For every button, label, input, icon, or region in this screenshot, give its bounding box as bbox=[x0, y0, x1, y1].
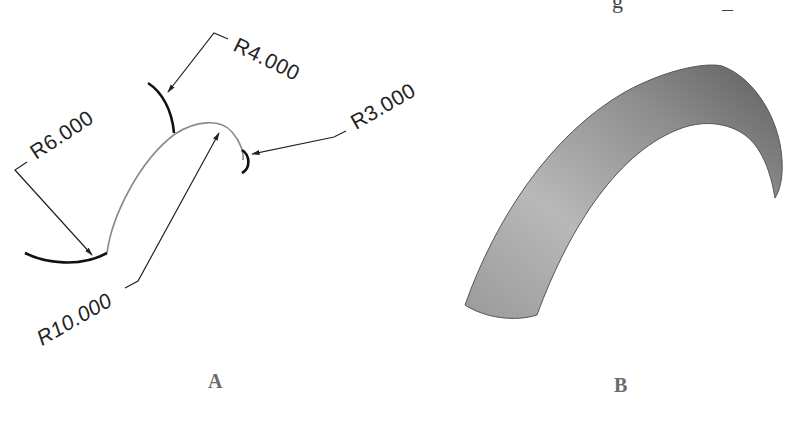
figure-canvas: R4.000 R3.000 R6.000 R10.000 bbox=[0, 0, 802, 425]
sweep-path-arc bbox=[107, 123, 243, 253]
r10-leader bbox=[125, 133, 219, 288]
swept-surface bbox=[465, 65, 782, 318]
r4-section-arc bbox=[148, 83, 174, 133]
r6-dimension-label: R6.000 bbox=[26, 106, 98, 164]
r3-dimension-label: R3.000 bbox=[347, 78, 420, 133]
r10-dimension-label: R10.000 bbox=[33, 288, 116, 349]
panel-label-b: B bbox=[614, 374, 627, 397]
r4-dimension-label: R4.000 bbox=[230, 33, 304, 85]
r6-section-arc bbox=[25, 253, 107, 262]
r3-leader bbox=[252, 131, 346, 154]
panel-b-drawing bbox=[465, 65, 782, 318]
r6-leader bbox=[15, 162, 92, 255]
panel-label-a: A bbox=[208, 370, 222, 393]
panel-a-drawing: R4.000 R3.000 R6.000 R10.000 bbox=[15, 33, 419, 350]
r4-leader bbox=[168, 33, 228, 92]
